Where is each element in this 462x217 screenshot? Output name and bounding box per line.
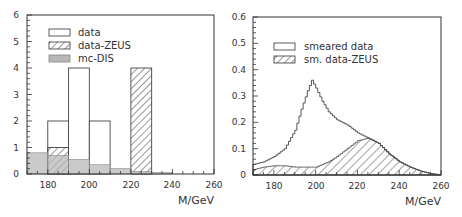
left-ytick-5: 5 xyxy=(13,37,19,47)
legend-label-smeared-data: smeared data xyxy=(304,41,373,52)
right-xtick-240: 240 xyxy=(390,181,407,191)
right-ytick-6: 0.6 xyxy=(232,12,247,22)
data-zeus-bar xyxy=(131,68,152,174)
right-chart: 0 0.1 0.2 0.3 0.4 0.5 0.6 180 200 220 24… xyxy=(232,12,450,208)
left-ytick-2: 2 xyxy=(13,116,19,126)
right-xtick-260: 260 xyxy=(432,181,449,191)
left-chart: 0 1 2 3 4 5 6 180 200 220 240 260 M/GeV … xyxy=(13,10,223,207)
sm-data-zeus-curve xyxy=(253,138,441,175)
right-ytick-1: 0.1 xyxy=(232,144,246,154)
legend-label-data-zeus: data-ZEUS xyxy=(78,40,131,51)
figure: 0 1 2 3 4 5 6 180 200 220 240 260 M/GeV … xyxy=(0,0,462,217)
right-legend: smeared data sm. data-ZEUS xyxy=(274,41,378,65)
legend-label-data: data xyxy=(78,27,101,38)
right-xtick-180: 180 xyxy=(265,181,282,191)
left-xaxis-title: M/GeV xyxy=(178,194,214,207)
left-xtick-240: 240 xyxy=(163,180,180,190)
legend-swatch-sm-data-zeus xyxy=(274,56,295,63)
legend-swatch-data-zeus xyxy=(49,42,70,49)
legend-swatch-data xyxy=(49,29,70,36)
left-ytick-4: 4 xyxy=(13,63,19,73)
legend-swatch-smeared-data xyxy=(274,43,295,50)
data-bar xyxy=(69,68,90,174)
left-xtick-200: 200 xyxy=(80,180,97,190)
legend-swatch-mc-dis xyxy=(49,55,70,62)
right-ytick-2: 0.2 xyxy=(232,117,246,127)
left-ytick-0: 0 xyxy=(13,169,19,179)
right-histogram-curves xyxy=(253,80,441,175)
legend-label-sm-data-zeus: sm. data-ZEUS xyxy=(304,54,378,65)
right-ytick-4: 0.4 xyxy=(232,65,247,75)
right-xtick-200: 200 xyxy=(307,181,324,191)
right-ytick-5: 0.5 xyxy=(232,38,246,48)
right-ytick-3: 0.3 xyxy=(232,91,246,101)
mc-dis-bar xyxy=(27,153,48,174)
left-legend: data data-ZEUS mc-DIS xyxy=(49,27,131,64)
left-xtick-260: 260 xyxy=(205,180,222,190)
left-histogram-bars xyxy=(27,68,172,174)
right-xtick-220: 220 xyxy=(348,181,365,191)
left-ytick-1: 1 xyxy=(13,143,19,153)
left-ytick-3: 3 xyxy=(13,90,19,100)
right-xaxis-title: M/GeV xyxy=(405,195,441,208)
left-xtick-220: 220 xyxy=(122,180,139,190)
left-xtick-180: 180 xyxy=(39,180,56,190)
left-ytick-6: 6 xyxy=(13,10,19,20)
legend-label-mc-dis: mc-DIS xyxy=(78,53,114,64)
right-ytick-0: 0 xyxy=(240,170,246,180)
